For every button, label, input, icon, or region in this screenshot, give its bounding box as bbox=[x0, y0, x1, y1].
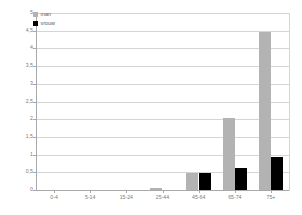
x-axis-tick-mark bbox=[90, 190, 91, 193]
x-axis-tick-label: 75+ bbox=[267, 195, 276, 200]
y-axis-tick-label: 1,5 bbox=[26, 134, 33, 139]
x-axis-tick-mark bbox=[54, 190, 55, 193]
plot-area bbox=[36, 13, 289, 190]
x-axis-tick-mark bbox=[163, 190, 164, 193]
x-axis-tick-mark bbox=[271, 190, 272, 193]
bar-vrouw bbox=[235, 168, 247, 190]
bar-man bbox=[259, 32, 271, 190]
legend-label-man: man bbox=[41, 12, 52, 17]
bar-group bbox=[42, 13, 67, 190]
legend-item-man: man bbox=[33, 10, 55, 19]
bar-man bbox=[186, 173, 198, 190]
y-axis-tick-label: 3,5 bbox=[26, 63, 33, 68]
bar-group bbox=[186, 13, 211, 190]
x-axis-tick-mark bbox=[235, 190, 236, 193]
legend-swatch-man-icon bbox=[33, 12, 38, 17]
x-axis-tick-label: 15-24 bbox=[120, 195, 133, 200]
x-axis-tick-label: 0-4 bbox=[50, 195, 58, 200]
x-axis-tick-label: 5-14 bbox=[85, 195, 95, 200]
bar-group bbox=[150, 13, 175, 190]
plot-right-border bbox=[289, 13, 290, 191]
x-axis-tick-mark bbox=[126, 190, 127, 193]
bar-chart: 54,543,532,521,510,50 0-45-1415-2425-444… bbox=[0, 0, 302, 215]
bar-group bbox=[223, 13, 248, 190]
chart-legend: man vrouw bbox=[33, 10, 55, 28]
y-axis-tick-labels: 54,543,532,521,510,50 bbox=[0, 0, 33, 215]
bar-group bbox=[259, 13, 284, 190]
bar-man bbox=[150, 188, 162, 190]
y-axis-tick-label: 0,5 bbox=[26, 170, 33, 175]
legend-item-vrouw: vrouw bbox=[33, 19, 55, 28]
y-axis-tick-label: 2,5 bbox=[26, 99, 33, 104]
bar-group bbox=[78, 13, 103, 190]
legend-swatch-vrouw-icon bbox=[33, 21, 38, 26]
x-axis-tick-mark bbox=[199, 190, 200, 193]
bar-vrouw bbox=[271, 157, 283, 190]
y-axis-tick-label: 4,5 bbox=[26, 28, 33, 33]
legend-label-vrouw: vrouw bbox=[41, 21, 55, 26]
x-axis-tick-label: 45-64 bbox=[192, 195, 205, 200]
bar-man bbox=[223, 118, 235, 190]
bar-vrouw bbox=[199, 173, 211, 190]
x-axis-tick-label: 65-74 bbox=[228, 195, 241, 200]
bar-group bbox=[114, 13, 139, 190]
x-axis-tick-label: 25-44 bbox=[156, 195, 169, 200]
